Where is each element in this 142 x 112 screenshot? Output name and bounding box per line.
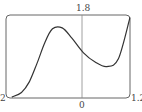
chart-canvas xyxy=(0,0,142,112)
y-top-tick-label: 1.8 xyxy=(76,4,90,13)
x-zero-tick-label: 0 xyxy=(79,101,85,110)
viewing-rectangle xyxy=(6,15,130,98)
function-curve xyxy=(12,17,130,97)
x-right-tick-label: 1.2 xyxy=(131,94,142,103)
x-left-tick-label: 2 xyxy=(0,94,6,103)
